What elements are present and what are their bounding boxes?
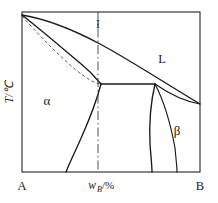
phase-diagram-figure: I L α β A B w B /% T/℃ xyxy=(0,0,218,203)
solidus-curve-left xyxy=(22,15,101,84)
x-axis-label-symbol: w xyxy=(88,179,96,191)
beta-solvus-curve xyxy=(150,84,155,172)
x-axis-origin-label: A xyxy=(17,179,26,193)
liquidus-curve xyxy=(22,15,200,104)
y-axis-label: T/℃ xyxy=(3,79,15,104)
x-axis-label: w B /% xyxy=(88,179,114,194)
region-label-liquid: L xyxy=(158,52,166,66)
alpha-solvus-curve xyxy=(66,84,101,172)
phase-diagram-canvas: I L α β A B w B /% T/℃ xyxy=(0,0,218,203)
solidus-curve-right xyxy=(155,84,200,104)
x-axis-end-label: B xyxy=(196,179,204,193)
region-label-alpha: α xyxy=(44,93,51,108)
region-label-beta: β xyxy=(174,123,181,138)
x-axis-label-unit: /% xyxy=(102,179,114,191)
y-axis-label-text: T/℃ xyxy=(3,79,15,104)
alloy-line-label: I xyxy=(96,17,100,31)
